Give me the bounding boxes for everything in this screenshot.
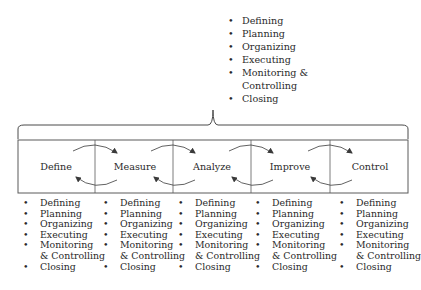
bullet-icon: • (255, 240, 261, 251)
back-arrow-icon (232, 177, 273, 185)
stage-measure: Measure (114, 161, 157, 172)
control-activities-list: •Defining •Planning •Organizing •Executi… (339, 198, 421, 272)
define-activities-list: •Defining •Planning •Organizing •Executi… (23, 198, 105, 272)
improve-activities-list: •Defining •Planning •Organizing •Executi… (255, 198, 337, 272)
bullet-icon: • (255, 198, 261, 209)
bullet-icon: • (339, 198, 345, 209)
list-item: •Closing (23, 262, 105, 273)
bullet-icon: • (23, 240, 29, 251)
back-arrow-icon (154, 177, 195, 185)
bullet-icon: • (23, 262, 29, 273)
bullet-icon: • (103, 240, 109, 251)
bullet-icon: • (339, 240, 345, 251)
curly-brace (18, 110, 408, 139)
bullet-icon: • (103, 198, 109, 209)
list-item: •Closing (255, 262, 337, 273)
bullet-icon: • (178, 198, 184, 209)
bullet-icon: • (339, 262, 345, 273)
list-item: •Closing (339, 262, 421, 273)
bullet-icon: • (23, 198, 29, 209)
stage-analyze: Analyze (193, 161, 231, 172)
bullet-icon: • (255, 262, 261, 273)
stage-improve: Improve (270, 161, 311, 172)
list-item: •Closing (178, 262, 260, 273)
bullet-icon: • (178, 262, 184, 273)
stage-define: Define (40, 161, 72, 172)
stage-control: Control (352, 161, 389, 172)
bullet-icon: • (178, 240, 184, 251)
bullet-icon: • (103, 262, 109, 273)
back-arrow-icon (311, 177, 352, 185)
list-item: •Closing (103, 262, 185, 273)
back-arrow-icon (76, 177, 117, 185)
analyze-activities-list: •Defining •Planning •Organizing •Executi… (178, 198, 260, 272)
measure-activities-list: •Defining •Planning •Organizing •Executi… (103, 198, 185, 272)
